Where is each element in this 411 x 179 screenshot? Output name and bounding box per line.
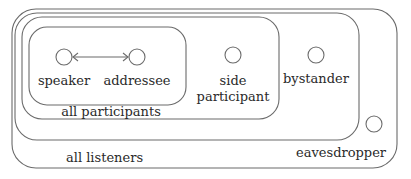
bystander-node-icon — [308, 47, 324, 63]
speaker-node-icon — [56, 49, 72, 65]
eavesdropper-node-icon — [366, 116, 382, 132]
bystander-label: bystander — [283, 71, 350, 86]
all-participants-label: all participants — [61, 104, 161, 119]
speaker-addressee-region-box — [29, 27, 186, 105]
all-listeners-label: all listeners — [66, 150, 143, 165]
side-participant-label-line1: side — [220, 73, 247, 88]
side-participant-node-icon — [225, 47, 241, 63]
participant-roles-diagram: speaker addressee side participant bysta… — [0, 0, 411, 179]
speaker-label: speaker — [38, 73, 91, 88]
side-participant-label-line2: participant — [197, 89, 271, 104]
addressee-node-icon — [129, 49, 145, 65]
addressee-label: addressee — [103, 73, 170, 88]
eavesdropper-label: eavesdropper — [296, 145, 387, 160]
